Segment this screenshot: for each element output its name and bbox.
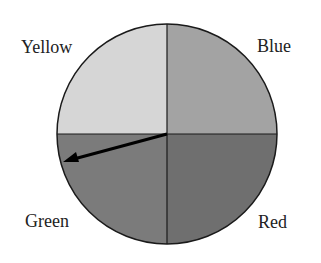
section-yellow: [57, 24, 167, 134]
label-red: Red: [258, 213, 287, 231]
section-green: [57, 134, 167, 244]
label-green: Green: [25, 212, 69, 230]
label-yellow: Yellow: [21, 38, 72, 56]
label-blue: Blue: [257, 37, 291, 55]
